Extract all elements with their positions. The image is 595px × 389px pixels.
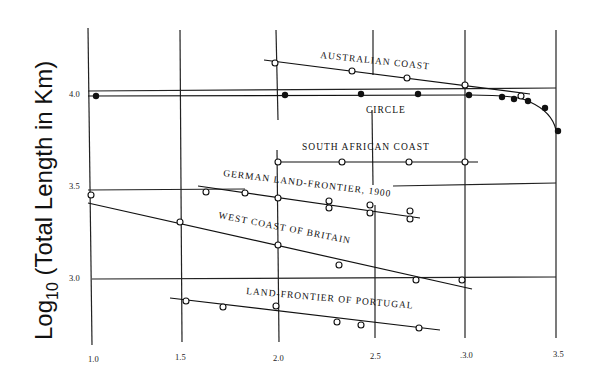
y-tick-4-0: 4.0	[69, 89, 80, 99]
filled-markers	[93, 91, 561, 134]
label-australian-coast: AUSTRALIAN COAST	[320, 50, 431, 71]
y-tick-3-0: 3.0	[69, 273, 80, 283]
x-tick-3-5: 3.5	[553, 349, 564, 359]
fit-lines	[88, 60, 556, 330]
x-tick-1-0: 1.0	[88, 354, 99, 364]
chart: AUSTRALIAN COAST CIRCLE SOUTH AFRICAN CO…	[0, 0, 595, 389]
label-circle: CIRCLE	[366, 105, 406, 115]
y-axis-label: Log10 (Total Length in Km)	[30, 61, 61, 340]
label-west-coast-britain: WEST COAST OF BRITAIN	[218, 210, 352, 246]
svg-text:Log10 (Total Length in Km): Log10 (Total Length in Km)	[30, 61, 61, 340]
y-tick-3-5: 3.5	[69, 181, 80, 191]
x-tick-1-5: 1.5	[175, 352, 186, 362]
label-land-frontier-portugal: LAND-FRONTIER OF PORTUGAL	[246, 286, 414, 311]
x-tick-3-0: .3.0	[460, 350, 473, 360]
label-south-african-coast: SOUTH AFRICAN COAST	[302, 142, 430, 152]
x-tick-2-0: 2.0	[273, 353, 284, 363]
x-tick-2-5: 2.5	[370, 351, 381, 361]
